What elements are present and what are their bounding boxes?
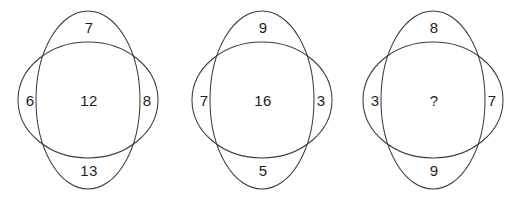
figure-2-right-value: 3 [303, 93, 339, 108]
figure-1-left-value: 6 [12, 93, 48, 108]
figure-1-center-value: 12 [71, 93, 107, 108]
figure-2-bottom-value: 5 [245, 163, 281, 178]
figure-2-center-value: 16 [245, 93, 281, 108]
figure-2-left-value: 7 [186, 93, 222, 108]
figure-1-right-value: 8 [129, 93, 165, 108]
figure-3-right-value: 7 [474, 93, 510, 108]
puzzle-stage: 7 6 12 8 13 9 7 16 3 5 8 3 ? 7 9 [0, 0, 531, 200]
figure-1-top-value: 7 [71, 20, 107, 35]
figure-1: 7 6 12 8 13 [0, 0, 177, 200]
figure-3-bottom-value: 9 [416, 163, 452, 178]
figure-2-top-value: 9 [245, 20, 281, 35]
figure-1-bottom-value: 13 [71, 163, 107, 178]
figure-3: 8 3 ? 7 9 [345, 0, 522, 200]
figure-3-top-value: 8 [416, 20, 452, 35]
figure-2: 9 7 16 3 5 [174, 0, 351, 200]
figure-3-unknown-value: ? [416, 93, 452, 108]
figure-3-left-value: 3 [357, 93, 393, 108]
